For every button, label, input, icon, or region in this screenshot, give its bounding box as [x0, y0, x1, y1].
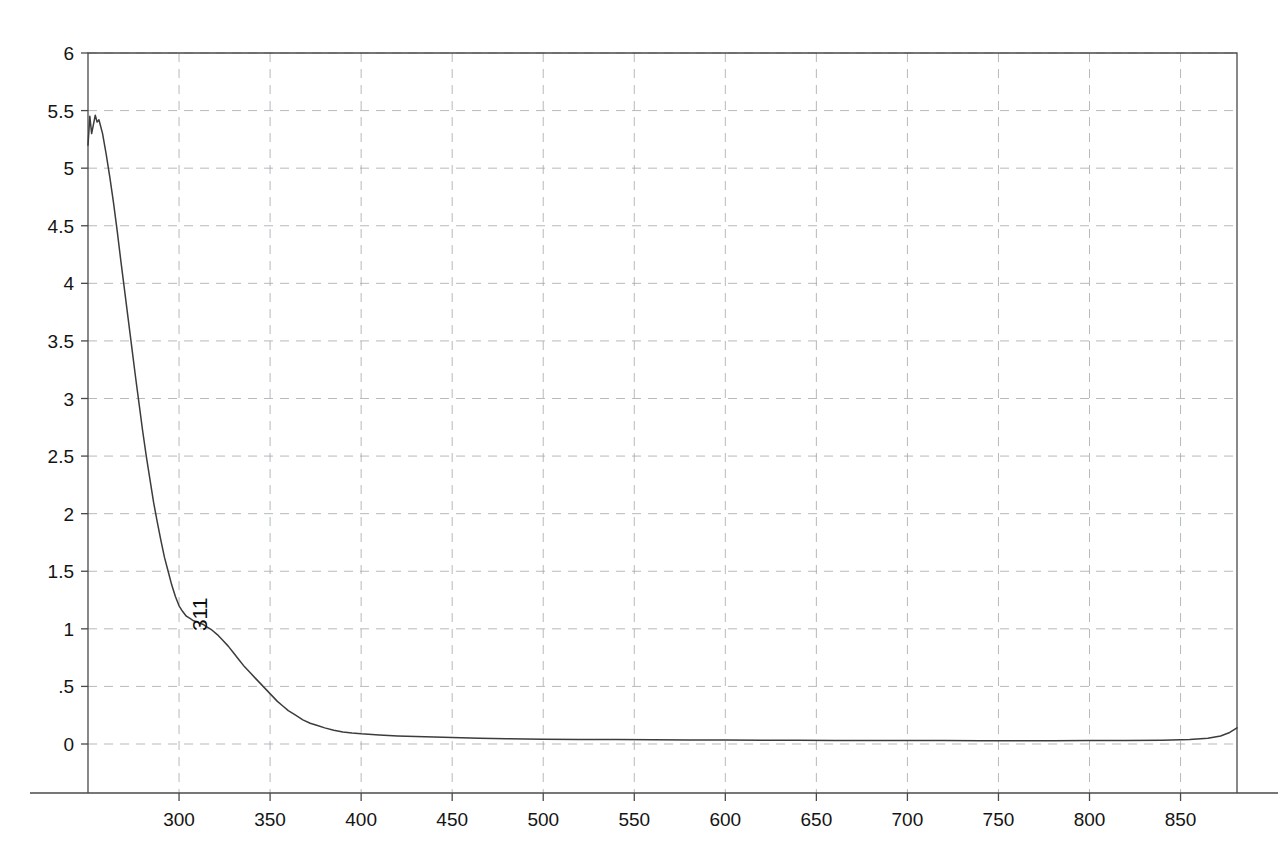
horizontal-gridlines: [88, 53, 1237, 744]
plot-frame: [30, 53, 1278, 793]
chart-container: 0.511.522.533.544.555.56 300350400450500…: [0, 0, 1285, 863]
y-tick-label: .5: [58, 676, 74, 697]
x-tick-label: 750: [983, 809, 1015, 830]
x-tick-label: 850: [1165, 809, 1197, 830]
y-tick-label: 3: [63, 389, 74, 410]
data-curve-layer: [88, 115, 1237, 740]
vertical-gridlines: [179, 53, 1181, 793]
y-tick-label: 2.5: [48, 446, 74, 467]
y-tick-label: 5.5: [48, 101, 74, 122]
y-tick-label: 1.5: [48, 561, 74, 582]
y-tick-label: 4.5: [48, 216, 74, 237]
x-tick-label: 500: [527, 809, 559, 830]
x-tick-label: 450: [436, 809, 468, 830]
data-curve: [88, 115, 1237, 740]
y-tick-label: 2: [63, 504, 74, 525]
y-tick-label: 4: [63, 273, 74, 294]
y-tick-label: 1: [63, 619, 74, 640]
x-tick-label: 400: [345, 809, 377, 830]
peak-annotation-label: 311: [188, 598, 211, 631]
y-tick-label: 3.5: [48, 331, 74, 352]
x-tick-label: 650: [801, 809, 833, 830]
x-tick-label: 800: [1074, 809, 1106, 830]
x-tick-label: 350: [254, 809, 286, 830]
x-tick-label: 600: [709, 809, 741, 830]
y-tick-label: 5: [63, 158, 74, 179]
x-tick-label: 550: [618, 809, 650, 830]
peak-annotation-layer: 311: [188, 598, 211, 631]
y-axis-ticks: [81, 53, 88, 744]
x-tick-label: 700: [892, 809, 924, 830]
x-tick-label: 300: [163, 809, 195, 830]
y-tick-label: 6: [63, 43, 74, 64]
y-axis-tick-labels: 0.511.522.533.544.555.56: [48, 43, 75, 755]
spectrum-plot: 0.511.522.533.544.555.56 300350400450500…: [0, 0, 1285, 863]
x-axis-ticks: [179, 793, 1181, 801]
y-tick-label: 0: [63, 734, 74, 755]
x-axis-tick-labels: 300350400450500550600650700750800850: [163, 809, 1196, 830]
